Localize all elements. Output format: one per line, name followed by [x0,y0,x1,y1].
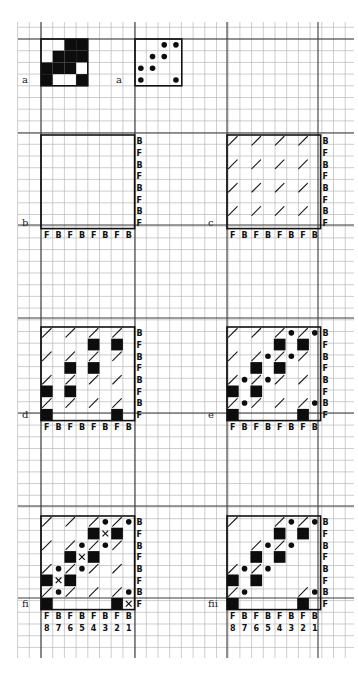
column-label: B [126,231,132,240]
panel-tag: e [208,409,214,420]
dot-mark [138,65,144,71]
thread-number: 3 [103,624,109,633]
slash-mark [66,352,75,361]
row-label: B [137,353,143,362]
dot-mark [126,589,132,595]
panel-fii: fiiBFBFBFBFFBFBFBFB87654321 [208,516,329,633]
column-label: B [265,612,271,621]
slash-mark [252,160,261,169]
dot-mark [265,353,271,359]
slash-mark [66,375,75,384]
column-label: B [241,612,247,621]
column-label: F [254,612,259,621]
filled-cell [53,62,65,74]
thread-number: 6 [253,624,259,633]
row-label: B [323,399,329,408]
filled-cell [297,598,309,610]
column-label: B [102,231,108,240]
weave-panels: aabBFBFBFBFFBFBFBFBcBFBFBFBFFBFBFBFBdBFB… [22,39,329,633]
column-label: B [55,231,61,240]
slash-mark [229,207,238,216]
graph-paper-sheet: aabBFBFBFBFFBFBFBFBcBFBFBFBFFBFBFBFBdBFB… [0,0,358,678]
row-label: B [323,542,329,551]
filled-cell [297,409,309,421]
filled-cell [41,575,53,587]
column-label: F [114,231,119,240]
filled-cell [297,528,309,540]
dot-mark [289,542,295,548]
row-label: B [323,137,329,146]
panel-d: dBFBFBFBFFBFBFBFB [22,327,143,432]
panel-tag: d [22,409,29,420]
slash-mark [252,183,261,192]
filled-cell [88,551,100,563]
slash-mark [89,329,98,338]
slash-mark [113,352,122,361]
slash-mark [252,137,261,146]
dot-mark [312,519,318,525]
dot-mark [150,54,156,60]
filled-cell [41,598,53,610]
column-label: F [300,231,305,240]
slash-mark [229,375,238,384]
column-label: F [91,423,96,432]
column-label: B [288,423,294,432]
row-label: F [137,196,142,205]
filled-cell [64,551,76,563]
row-label: F [323,388,328,397]
column-label: F [114,423,119,432]
row-label: B [323,329,329,338]
thread-number: 5 [265,624,271,633]
dot-mark [265,542,271,548]
dot-mark [312,400,318,406]
row-label: F [323,196,328,205]
row-label: B [137,518,143,527]
filled-cell [64,51,76,63]
column-label: B [55,612,61,621]
column-label: F [254,231,259,240]
filled-cell [64,362,76,374]
column-label: B [55,423,61,432]
column-label: B [288,231,294,240]
dot-mark [242,400,248,406]
slash-mark [113,329,122,338]
thread-number: 2 [114,624,120,633]
row-label: B [137,588,143,597]
panel-fi: fiBFBFBFBFFBFBFBFB87654321 [22,516,143,633]
slash-mark [229,329,238,338]
row-label: B [323,184,329,193]
column-label: B [79,231,85,240]
slash-mark [229,137,238,146]
slash-mark [299,137,308,146]
filled-cell [227,409,239,421]
filled-cell [64,575,76,587]
slash-mark [299,160,308,169]
row-label: F [137,149,142,158]
dot-mark [161,54,167,60]
panel-tag: a [22,74,28,85]
slash-mark [229,352,238,361]
row-label: F [137,172,142,181]
panel-c: cBFBFBFBFFBFBFBFB [208,135,329,240]
row-label: B [323,376,329,385]
filled-cell [64,62,76,74]
slash-mark [275,352,284,361]
slash-mark [299,399,308,408]
filled-cell [250,362,262,374]
row-label: F [137,553,142,562]
row-label: F [323,341,328,350]
slash-mark [299,183,308,192]
dot-mark [103,519,109,525]
filled-cell [64,39,76,51]
row-label: F [137,530,142,539]
row-label: B [137,329,143,338]
filled-cell [111,528,123,540]
dot-mark [173,77,179,83]
column-label: F [91,612,96,621]
thread-number: 4 [277,624,283,633]
column-label: F [44,231,49,240]
row-label: F [323,219,328,228]
dot-mark [138,77,144,83]
dot-mark [289,330,295,336]
column-label: F [68,612,73,621]
